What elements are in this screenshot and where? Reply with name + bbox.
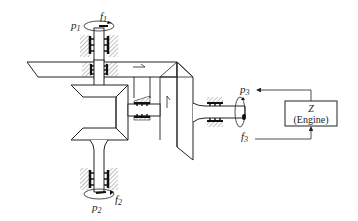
port2-flow-label: f2 bbox=[115, 193, 122, 207]
side-gears bbox=[71, 85, 128, 140]
port1-flow-label: f1 bbox=[100, 10, 107, 24]
port1-effort-label: p1 bbox=[70, 19, 81, 33]
engine-block: Z (Engine) bbox=[285, 101, 337, 126]
port3-flow-label: f3 bbox=[241, 130, 248, 144]
right-shaft bbox=[193, 97, 246, 127]
differential-diagram: p1 f1 bbox=[0, 0, 358, 221]
port2-effort-label: p2 bbox=[91, 201, 102, 215]
bottom-shaft bbox=[80, 140, 118, 199]
top-bearing-right-housing bbox=[108, 35, 118, 57]
ring-gear-top bbox=[27, 60, 177, 88]
engine-symbol: Z bbox=[308, 103, 314, 114]
engine-label: (Engine) bbox=[294, 114, 329, 126]
top-bearing-left-housing bbox=[80, 35, 90, 57]
port3-effort-label: p3 bbox=[239, 83, 250, 97]
planet-pinion bbox=[128, 96, 160, 120]
